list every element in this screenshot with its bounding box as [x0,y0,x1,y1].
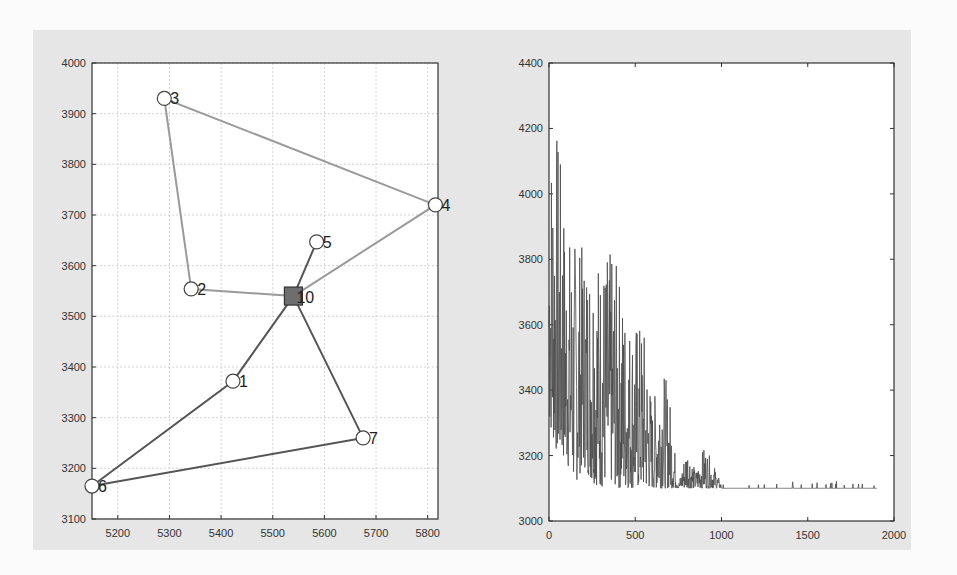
y-tick-label: 3000 [519,515,543,527]
y-tick-label: 3200 [519,450,543,462]
y-tick-label: 4000 [519,188,543,200]
y-tick-label: 4400 [519,57,543,69]
y-tick-label: 3600 [519,319,543,331]
y-tick-label: 3400 [519,384,543,396]
x-tick-label: 0 [546,529,552,541]
y-tick-label: 4200 [519,122,543,134]
x-tick-label: 2000 [882,529,906,541]
x-tick-label: 1500 [796,529,820,541]
y-tick-label: 3800 [519,253,543,265]
x-tick-label: 500 [626,529,644,541]
convergence-plot: 0500100015002000300032003400360038004000… [0,0,957,575]
x-tick-label: 1000 [709,529,733,541]
